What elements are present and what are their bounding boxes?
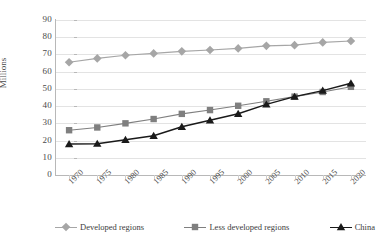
y-tick-label: 50	[28, 83, 52, 93]
square-marker-icon	[184, 222, 206, 232]
diamond-marker-icon	[178, 47, 187, 56]
y-tick-label: 80	[28, 31, 52, 41]
legend-label: China	[355, 222, 375, 232]
plot-area	[55, 20, 365, 175]
y-tick-label: 10	[28, 152, 52, 162]
series-less-developed-regions	[66, 84, 354, 134]
y-tick-label: 60	[28, 66, 52, 76]
y-tick-label: 20	[28, 135, 52, 145]
y-axis-ticks: 0102030405060708090	[22, 0, 52, 240]
square-marker-icon	[66, 127, 72, 133]
y-tick-label: 70	[28, 48, 52, 58]
square-marker-icon	[150, 116, 156, 122]
diamond-marker-icon	[318, 38, 327, 47]
series-developed-regions	[65, 37, 355, 67]
square-marker-icon	[235, 103, 241, 109]
legend-label: Less developed regions	[209, 222, 289, 232]
y-tick-label: 30	[28, 117, 52, 127]
y-tick-label: 40	[28, 100, 52, 110]
series-line	[69, 83, 351, 144]
diamond-marker-icon	[347, 37, 356, 46]
square-marker-icon	[122, 120, 128, 126]
triangle-marker-icon	[330, 222, 352, 232]
legend-item-developed-regions[interactable]: Developed regions	[55, 222, 144, 232]
diamond-marker-icon	[234, 44, 243, 53]
diamond-marker-icon	[149, 49, 158, 58]
y-tick-label: 0	[28, 169, 52, 179]
y-axis-title: Millions	[0, 38, 8, 108]
diamond-marker-icon	[62, 223, 71, 232]
square-marker-icon	[207, 107, 213, 113]
line-chart: 0102030405060708090 Millions 19701975198…	[0, 0, 389, 240]
diamond-marker-icon	[55, 222, 77, 232]
y-tick-label: 90	[28, 14, 52, 24]
chart-legend: Developed regionsLess developed regionsC…	[55, 219, 383, 235]
triangle-marker-icon	[336, 223, 344, 230]
series-layer	[55, 20, 365, 175]
legend-label: Developed regions	[80, 222, 144, 232]
legend-item-less-developed-regions[interactable]: Less developed regions	[184, 222, 289, 232]
diamond-marker-icon	[121, 51, 130, 60]
triangle-marker-icon	[347, 79, 355, 86]
legend-item-china[interactable]: China	[330, 222, 375, 232]
diamond-marker-icon	[206, 46, 215, 55]
diamond-marker-icon	[65, 58, 74, 67]
diamond-marker-icon	[262, 42, 271, 51]
diamond-marker-icon	[93, 54, 102, 63]
square-marker-icon	[94, 124, 100, 130]
diamond-marker-icon	[290, 41, 299, 50]
square-marker-icon	[192, 224, 198, 230]
square-marker-icon	[179, 111, 185, 117]
